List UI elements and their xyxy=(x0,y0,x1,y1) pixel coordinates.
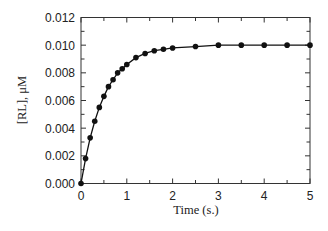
data-point xyxy=(78,181,84,187)
x-tick-label: 3 xyxy=(215,189,222,203)
data-point xyxy=(97,105,103,111)
data-point xyxy=(106,84,112,90)
axis-tick-labels: 0123450.0000.0020.0040.0060.0080.0100.01… xyxy=(45,11,314,203)
y-tick-label: 0.010 xyxy=(45,39,75,53)
data-point xyxy=(193,44,199,50)
data-point xyxy=(261,42,267,48)
x-tick-label: 2 xyxy=(169,189,176,203)
x-tick-label: 1 xyxy=(123,189,130,203)
data-point xyxy=(110,77,116,83)
x-tick-label: 5 xyxy=(307,189,314,203)
data-point xyxy=(239,42,245,48)
y-tick-label: 0.004 xyxy=(45,122,75,136)
data-markers xyxy=(78,42,313,186)
data-point xyxy=(83,156,89,162)
data-point xyxy=(92,118,98,124)
data-point xyxy=(101,94,107,100)
data-point xyxy=(170,45,176,51)
y-axis-title: [RL], μM xyxy=(15,76,29,124)
data-point xyxy=(161,47,167,53)
y-tick-label: 0.008 xyxy=(45,66,75,80)
data-point xyxy=(87,135,93,141)
data-point xyxy=(124,62,130,68)
chart: 0123450.0000.0020.0040.0060.0080.0100.01… xyxy=(0,0,328,231)
data-point xyxy=(307,42,313,48)
data-point xyxy=(216,42,222,48)
data-point xyxy=(151,48,157,54)
data-point xyxy=(115,70,121,76)
y-tick-label: 0.012 xyxy=(45,11,75,25)
y-tick-label: 0.006 xyxy=(45,94,75,108)
data-point xyxy=(133,55,139,61)
x-tick-label: 4 xyxy=(261,189,268,203)
data-line xyxy=(81,45,310,183)
plot-frame xyxy=(81,18,310,184)
x-tick-label: 0 xyxy=(78,189,85,203)
y-tick-label: 0.002 xyxy=(45,149,75,163)
data-point xyxy=(284,42,290,48)
x-axis-title: Time (s.) xyxy=(173,203,218,217)
y-tick-label: 0.000 xyxy=(45,177,75,191)
data-point xyxy=(119,66,125,72)
axis-ticks xyxy=(81,18,310,184)
data-point xyxy=(142,51,148,57)
